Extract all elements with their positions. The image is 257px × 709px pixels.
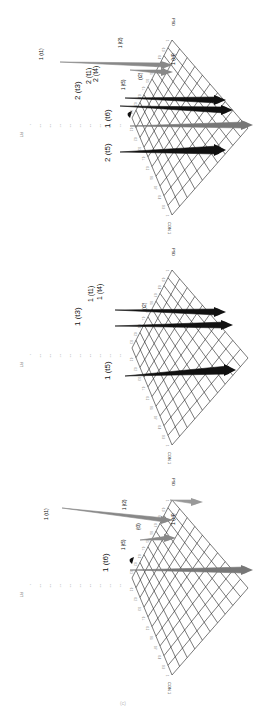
con-tick: 0.1 <box>129 358 133 362</box>
fit-tick: 0.7 <box>59 124 62 128</box>
surface-grid <box>132 500 248 675</box>
fit-tick: 0.2 <box>109 584 112 588</box>
peak-label: 1 (t6) <box>101 553 110 572</box>
psd-tick: 0.9 <box>161 508 165 512</box>
psd-tick: 1 <box>165 270 169 272</box>
con-axis-label: CON 1 <box>167 452 172 465</box>
plot-panel: 0.10.10.20.20.30.30.40.40.50.50.60.60.70… <box>19 248 248 465</box>
con-tick: 0.3 <box>137 607 141 611</box>
con-tick: 0.9 <box>161 665 165 669</box>
fit-tick: 0.5 <box>79 124 82 128</box>
con-tick: 0.2 <box>133 137 137 141</box>
con-tick: 0.3 <box>137 377 141 381</box>
fit-tick: 0.5 <box>79 584 82 588</box>
fit-axis-label: FIT <box>19 362 23 368</box>
con-tick: 0.5 <box>145 167 149 171</box>
fit-tick: 0.6 <box>69 584 72 588</box>
peak-label: 1 (t4) <box>96 284 104 300</box>
con-tick: 0.8 <box>157 426 161 430</box>
con-axis-label: CON 1 <box>167 682 172 695</box>
fit-tick: 0.7 <box>59 584 62 588</box>
con-tick: 1 <box>165 445 169 447</box>
peak-label: 2 (t5) <box>103 143 112 162</box>
fit-tick: 1 <box>29 124 32 126</box>
fit-tick: 0.4 <box>89 584 92 588</box>
con-tick: 0.2 <box>133 367 137 371</box>
figure-canvas: 0.10.10.20.20.30.30.40.40.50.50.60.60.70… <box>0 0 257 709</box>
peak-label: 1 (t1) <box>87 286 95 302</box>
fit-tick: 0.3 <box>99 124 102 128</box>
psd-tick: 0.4 <box>141 317 145 321</box>
peak-label: 2 (t3) <box>73 81 82 100</box>
con-tick: 0.2 <box>133 597 137 601</box>
con-tick: 0.8 <box>157 196 161 200</box>
psd-tick: 0.9 <box>161 48 165 52</box>
fit-tick: 0.8 <box>49 354 52 358</box>
con-tick: 0.6 <box>149 636 153 640</box>
peak-label: 1 (t5) <box>103 361 112 380</box>
fit-tick: 1 <box>29 354 32 356</box>
fit-tick: 0.9 <box>39 354 42 358</box>
psd-tick: 0.4 <box>141 87 145 91</box>
con-tick: 0.9 <box>161 205 165 209</box>
caption: (c) <box>120 700 126 706</box>
fit-tick: 0.3 <box>99 354 102 358</box>
con-tick: 1 <box>165 675 169 677</box>
fit-tick: 0.4 <box>89 354 92 358</box>
fit-tick: 0.1 <box>119 124 122 128</box>
con-tick: 0.4 <box>141 617 145 621</box>
psd-tick: 1 <box>165 40 169 42</box>
peak-label: 2 (t4) <box>92 66 100 82</box>
peak-label: 1 (t5) <box>121 539 126 550</box>
fit-tick: 0.9 <box>39 584 42 588</box>
psd-axis-label: PSD <box>171 18 176 26</box>
surface-grid <box>132 270 248 445</box>
psd-tick: 0.6 <box>149 301 153 305</box>
peak-label: 1 (t3) <box>73 307 82 326</box>
con-tick: 0.6 <box>149 176 153 180</box>
peak-label: (t3) <box>136 523 141 530</box>
con-tick: 0.4 <box>141 157 145 161</box>
peak-label: 1 (t4) <box>170 53 176 65</box>
peak-label: (t2) <box>137 72 143 80</box>
peak-label: 1 (t5) <box>121 79 126 90</box>
psd-tick: 0.9 <box>161 278 165 282</box>
plot-panel: 0.10.10.20.20.30.30.40.40.50.50.60.60.70… <box>19 478 253 695</box>
fit-tick: 0.6 <box>69 354 72 358</box>
peak-label: 1 (t1) <box>43 508 49 520</box>
con-tick: 0.5 <box>145 397 149 401</box>
peak-label: (t2) <box>141 302 147 310</box>
fit-tick: 0.8 <box>49 124 52 128</box>
fit-tick: 1 <box>29 584 32 586</box>
peak-label: 1 (t2) <box>118 37 123 48</box>
psd-axis-label: PSD <box>171 478 176 486</box>
psd-tick: 0.2 <box>133 562 137 566</box>
fit-tick: 0.2 <box>109 354 112 358</box>
fit-tick: 0.1 <box>119 584 122 588</box>
con-tick: 0.8 <box>157 656 161 660</box>
peak-label: 1 (t4) <box>170 513 176 525</box>
peak-label: 1 (t6) <box>103 109 112 128</box>
con-tick: 0.1 <box>129 588 133 592</box>
psd-tick: 0.6 <box>149 531 153 535</box>
con-tick: 0.4 <box>141 387 145 391</box>
fit-tick: 0.9 <box>39 124 42 128</box>
con-tick: 0.6 <box>149 406 153 410</box>
con-axis-label: CON 1 <box>167 222 172 235</box>
psd-tick: 1 <box>165 500 169 502</box>
fit-tick: 0.6 <box>69 124 72 128</box>
fit-tick: 0.4 <box>89 124 92 128</box>
fit-axis-label: FIT <box>19 592 23 598</box>
peak-label: 1 (t1) <box>38 48 44 60</box>
con-tick: 0.7 <box>153 186 157 190</box>
con-tick: 0.5 <box>145 627 149 631</box>
psd-tick: 0.5 <box>145 79 149 83</box>
plot-panel: 0.10.10.20.20.30.30.40.40.50.50.60.60.70… <box>19 18 253 235</box>
peak-label: 1 (t2) <box>122 499 127 510</box>
psd-tick: 0.1 <box>129 570 133 574</box>
psd-tick: 0.7 <box>153 523 157 527</box>
psd-tick: 0.2 <box>133 332 137 336</box>
psd-tick: 0.3 <box>137 555 141 559</box>
fit-tick: 0.8 <box>49 584 52 588</box>
psd-tick: 0.1 <box>129 340 133 344</box>
